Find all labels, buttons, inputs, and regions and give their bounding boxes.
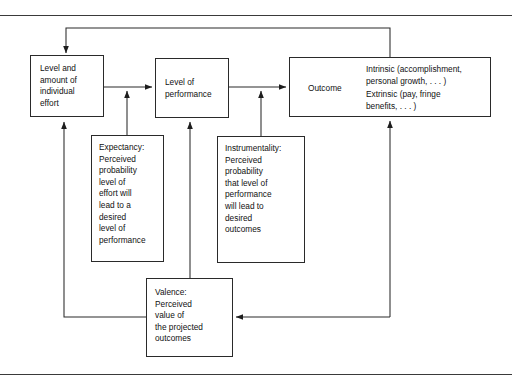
- node-outcome-label: Outcome: [308, 83, 342, 95]
- diagram-canvas: Level and amount of individual effort Le…: [0, 0, 512, 388]
- node-instrumentality-label: Instrumentality: Perceived probability t…: [225, 143, 281, 236]
- node-effort[interactable]: Level and amount of individual effort: [30, 55, 104, 117]
- node-effort-label: Level and amount of individual effort: [40, 63, 77, 109]
- node-outcome-extrinsic-label: Extrinsic (pay, fringe benefits, . . . ): [366, 89, 441, 112]
- node-outcome-intrinsic-label: Intrinsic (accomplishment, personal grow…: [366, 64, 462, 87]
- edge-outcome-to-effort: [66, 28, 390, 57]
- node-instrumentality[interactable]: Instrumentality: Perceived probability t…: [217, 136, 305, 263]
- node-valence-label: Valence: Perceived value of the projecte…: [155, 287, 203, 345]
- top-divider-rule: [0, 15, 512, 16]
- node-performance-label: Level of performance: [165, 77, 212, 100]
- node-expectancy[interactable]: Expectancy: Perceived probability level …: [91, 135, 164, 262]
- node-expectancy-label: Expectancy: Perceived probability level …: [99, 142, 146, 246]
- node-outcome[interactable]: Outcome Intrinsic (accomplishment, perso…: [289, 57, 491, 117]
- bottom-divider-rule: [0, 374, 512, 375]
- node-performance[interactable]: Level of performance: [155, 58, 229, 118]
- node-valence[interactable]: Valence: Perceived value of the projecte…: [146, 278, 233, 357]
